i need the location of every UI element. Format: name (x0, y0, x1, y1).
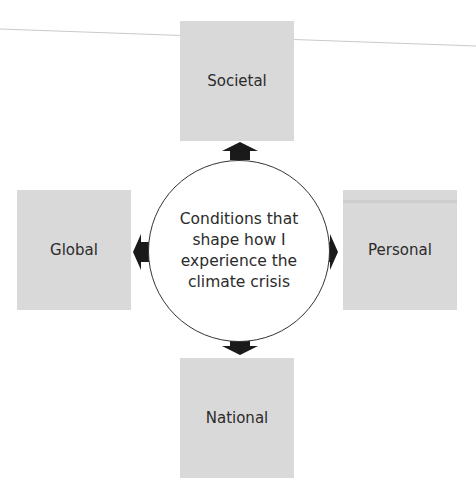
node-label-global: Global (50, 241, 98, 259)
arrow-up-icon (222, 142, 258, 160)
center-label: Conditions that shape how I experience t… (164, 209, 314, 293)
node-label-personal: Personal (368, 241, 432, 259)
node-label-societal: Societal (207, 72, 267, 90)
center-circle: Conditions that shape how I experience t… (148, 160, 330, 342)
node-societal: Societal (180, 21, 294, 141)
node-label-national: National (206, 409, 269, 427)
node-global: Global (17, 190, 131, 310)
scan-stripe (343, 200, 457, 203)
node-personal: Personal (343, 190, 457, 310)
node-national: National (180, 358, 294, 478)
arrow-left-icon (133, 234, 149, 270)
